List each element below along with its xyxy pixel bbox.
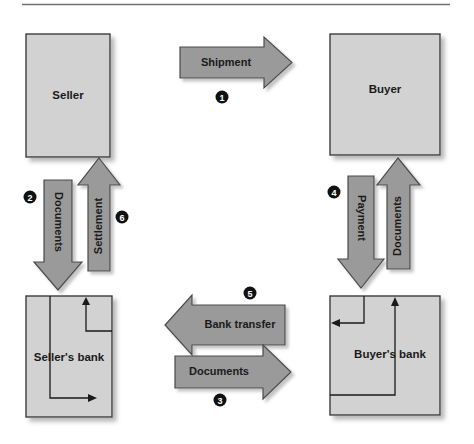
step-badge-4-number: 4 — [331, 188, 336, 198]
arrow-payment-label: Payment — [356, 195, 368, 241]
step-badge-3: 3 — [214, 394, 227, 407]
arrow-shipment: Shipment — [180, 37, 292, 88]
arrow-documents-bank-to-buyer: Documents — [377, 158, 420, 269]
box-seller: Seller — [26, 34, 110, 157]
step-badge-3-number: 3 — [217, 396, 222, 406]
trade-finance-flow-diagram: Seller Buyer Seller's bank Bu — [0, 0, 474, 444]
step-badge-1-number: 1 — [219, 93, 224, 103]
step-badge-2-number: 2 — [27, 193, 32, 203]
arrow-documents-banks-label: Documents — [189, 365, 249, 377]
arrow-documents-bank-to-buyer-label: Documents — [391, 196, 403, 256]
arrow-shipment-label: Shipment — [201, 56, 251, 68]
step-badge-1: 1 — [216, 91, 229, 104]
box-buyers-bank-label: Buyer's bank — [354, 348, 426, 360]
arrow-payment: Payment — [338, 176, 384, 288]
arrow-bank-transfer-label: Bank transfer — [205, 318, 277, 330]
box-buyers-bank: Buyer's bank — [330, 296, 440, 415]
arrow-settlement: Settlement — [78, 158, 120, 271]
arrow-documents-seller-to-bank: Documents — [34, 180, 82, 290]
box-seller-label: Seller — [52, 89, 84, 101]
step-badge-5-number: 5 — [247, 289, 252, 299]
step-badge-6-number: 6 — [119, 213, 124, 223]
arrow-bank-transfer: Bank transfer — [165, 295, 285, 355]
arrow-settlement-label: Settlement — [92, 198, 104, 255]
step-badge-6: 6 — [116, 211, 129, 224]
step-badge-2: 2 — [24, 191, 37, 204]
arrow-documents-seller-to-bank-label: Documents — [53, 192, 65, 252]
box-sellers-bank: Seller's bank — [26, 296, 112, 417]
step-badge-4: 4 — [328, 186, 341, 199]
box-buyer-label: Buyer — [369, 83, 402, 95]
box-buyer: Buyer — [330, 34, 440, 155]
step-badge-5: 5 — [244, 287, 257, 300]
box-sellers-bank-label: Seller's bank — [34, 351, 105, 363]
